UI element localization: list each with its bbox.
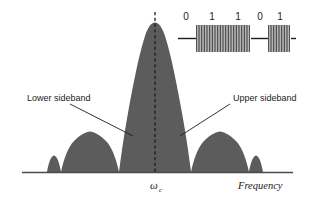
inset-burst-bit-1c	[269, 25, 290, 52]
spectrum-figure: 0 1 1 0 1 Lower sideband Upper sideband …	[0, 0, 310, 206]
carrier-omega-symbol: ω	[150, 179, 158, 191]
upper-sideband-leader-line	[180, 104, 230, 136]
carrier-omega-subscript: c	[159, 186, 163, 194]
inset-bit-label-3: 0	[257, 11, 263, 22]
upper-sideband-label: Upper sideband	[233, 93, 297, 103]
lower-sideband-label: Lower sideband	[27, 93, 91, 103]
ask-waveform-inset: 0 1 1 0 1	[178, 11, 296, 52]
inset-bit-label-2: 1	[235, 11, 241, 22]
figure-canvas: 0 1 1 0 1 Lower sideband Upper sideband …	[0, 0, 310, 206]
carrier-frequency-label: ω c	[150, 179, 163, 194]
inset-bit-label-4: 1	[277, 11, 283, 22]
frequency-axis-label: Frequency	[237, 180, 283, 191]
inset-burst-bit-1a	[197, 25, 224, 52]
inset-burst-bit-1b	[225, 25, 249, 52]
lower-sideband-leader-line	[70, 104, 133, 136]
inset-bit-label-1: 1	[209, 11, 215, 22]
inset-bit-label-0: 0	[183, 11, 189, 22]
